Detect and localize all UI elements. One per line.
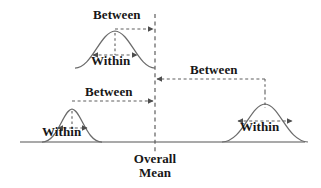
- label-overall-mean: Overall Mean: [125, 152, 185, 179]
- label-overall-mean-line2: Mean: [125, 166, 185, 180]
- label-overall-mean-line1: Overall: [125, 152, 185, 166]
- label-within-bottom-left: Within: [42, 125, 81, 139]
- label-within-right: Within: [240, 120, 279, 134]
- anova-variation-diagram: Between Within Between Within Between Wi…: [0, 0, 321, 188]
- label-between-top-left: Between: [93, 8, 141, 22]
- label-between-bottom-left: Between: [85, 85, 133, 99]
- label-between-right: Between: [190, 63, 238, 77]
- label-within-top-left: Within: [91, 54, 130, 68]
